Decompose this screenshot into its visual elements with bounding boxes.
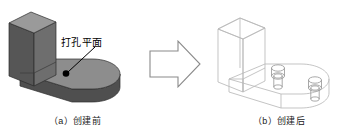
hole-1-bore-top [274,74,282,78]
wireframe-group [218,18,329,108]
hole-2-bore-top [311,86,319,90]
hole-1-counterbore-top [272,65,285,71]
caption-before: （a）创建前 [0,114,150,127]
upright-top-face-outline [218,18,265,39]
upright-front-face [9,23,34,86]
after-wireframe-svg [196,0,362,132]
before-solid-svg [0,0,150,132]
right-arrow-icon [150,41,200,87]
upright-front-left-face [218,29,243,92]
callout-label-drilling-plane: 打孔平面 [61,34,102,49]
figure-before: 打孔平面 （a）创建前 [0,0,150,132]
hole-1-bore-bottom [274,85,282,89]
upright-right-face [243,28,265,92]
counterbore-hole-1 [272,65,285,89]
upright-block-wireframe [218,18,265,92]
figure-after: （b）创建后 [196,0,362,132]
upright-hidden-back-edges [218,18,265,29]
hole-1-counterbore-wall [272,68,285,76]
callout-target-dot [63,70,70,77]
caption-after: （b）创建后 [196,114,362,127]
counterbore-hole-2 [309,77,322,101]
upright-block [9,12,56,86]
hole-2-bore-bottom [311,97,319,101]
figure-canvas: 打孔平面 （a）创建前 [0,0,362,132]
hole-2-counterbore-wall [309,80,322,88]
hole-2-counterbore-top [309,77,322,83]
